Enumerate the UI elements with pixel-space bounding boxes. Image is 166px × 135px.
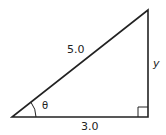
hypotenuse-label: 5.0: [67, 44, 85, 55]
opposite-side-label: y: [153, 58, 160, 69]
angle-theta-label: θ: [42, 101, 48, 111]
base-label: 3.0: [81, 121, 99, 132]
triangle-shape: [12, 10, 148, 117]
triangle-figure: [0, 0, 166, 135]
angle-arc: [31, 102, 36, 117]
triangle-diagram: 5.0 3.0 y θ: [0, 0, 166, 135]
right-angle-marker: [138, 107, 148, 117]
